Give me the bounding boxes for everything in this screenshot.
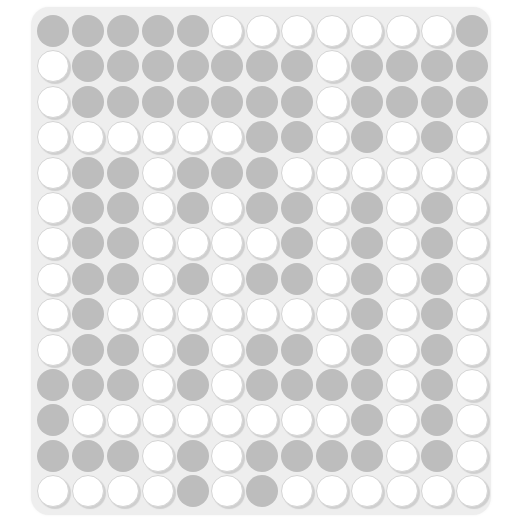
circle-cell-r2-c3[interactable] (107, 50, 139, 82)
circle-cell-r5-c12[interactable] (421, 157, 453, 189)
circle-cell-r1-c6[interactable] (211, 15, 243, 47)
circle-cell-r12-c7[interactable] (246, 404, 278, 436)
circle-cell-r11-c5[interactable] (177, 369, 209, 401)
circle-cell-r6-c1[interactable] (37, 192, 69, 224)
circle-cell-r14-c2[interactable] (72, 475, 104, 507)
circle-cell-r3-c13[interactable] (456, 86, 488, 118)
circle-cell-r6-c12[interactable] (421, 192, 453, 224)
circle-cell-r1-c2[interactable] (72, 15, 104, 47)
circle-cell-r12-c6[interactable] (211, 404, 243, 436)
circle-cell-r14-c4[interactable] (142, 475, 174, 507)
circle-cell-r4-c1[interactable] (37, 121, 69, 153)
circle-cell-r3-c7[interactable] (246, 86, 278, 118)
circle-cell-r11-c10[interactable] (351, 369, 383, 401)
circle-cell-r1-c10[interactable] (351, 15, 383, 47)
circle-cell-r4-c9[interactable] (316, 121, 348, 153)
circle-cell-r8-c1[interactable] (37, 263, 69, 295)
circle-cell-r3-c1[interactable] (37, 86, 69, 118)
circle-cell-r12-c4[interactable] (142, 404, 174, 436)
circle-cell-r7-c10[interactable] (351, 227, 383, 259)
circle-cell-r4-c8[interactable] (281, 121, 313, 153)
circle-cell-r10-c6[interactable] (211, 334, 243, 366)
circle-cell-r3-c9[interactable] (316, 86, 348, 118)
circle-cell-r13-c6[interactable] (211, 440, 243, 472)
circle-cell-r7-c3[interactable] (107, 227, 139, 259)
circle-cell-r6-c7[interactable] (246, 192, 278, 224)
circle-cell-r14-c12[interactable] (421, 475, 453, 507)
circle-cell-r3-c12[interactable] (421, 86, 453, 118)
circle-cell-r7-c7[interactable] (246, 227, 278, 259)
circle-cell-r5-c3[interactable] (107, 157, 139, 189)
circle-cell-r14-c1[interactable] (37, 475, 69, 507)
circle-cell-r11-c3[interactable] (107, 369, 139, 401)
circle-cell-r14-c5[interactable] (177, 475, 209, 507)
circle-cell-r7-c4[interactable] (142, 227, 174, 259)
circle-cell-r10-c1[interactable] (37, 334, 69, 366)
circle-cell-r4-c13[interactable] (456, 121, 488, 153)
circle-cell-r6-c8[interactable] (281, 192, 313, 224)
circle-cell-r6-c6[interactable] (211, 192, 243, 224)
circle-cell-r2-c9[interactable] (316, 50, 348, 82)
circle-cell-r12-c3[interactable] (107, 404, 139, 436)
circle-cell-r10-c5[interactable] (177, 334, 209, 366)
circle-cell-r9-c5[interactable] (177, 298, 209, 330)
circle-cell-r4-c6[interactable] (211, 121, 243, 153)
circle-cell-r13-c2[interactable] (72, 440, 104, 472)
circle-cell-r9-c13[interactable] (456, 298, 488, 330)
circle-cell-r12-c11[interactable] (386, 404, 418, 436)
circle-cell-r9-c7[interactable] (246, 298, 278, 330)
circle-cell-r7-c2[interactable] (72, 227, 104, 259)
circle-cell-r10-c13[interactable] (456, 334, 488, 366)
circle-cell-r3-c11[interactable] (386, 86, 418, 118)
circle-cell-r9-c6[interactable] (211, 298, 243, 330)
circle-cell-r6-c13[interactable] (456, 192, 488, 224)
circle-cell-r2-c5[interactable] (177, 50, 209, 82)
circle-cell-r8-c8[interactable] (281, 263, 313, 295)
circle-cell-r6-c5[interactable] (177, 192, 209, 224)
circle-cell-r13-c1[interactable] (37, 440, 69, 472)
circle-cell-r11-c2[interactable] (72, 369, 104, 401)
circle-cell-r12-c1[interactable] (37, 404, 69, 436)
circle-cell-r8-c11[interactable] (386, 263, 418, 295)
circle-cell-r14-c13[interactable] (456, 475, 488, 507)
circle-cell-r14-c10[interactable] (351, 475, 383, 507)
circle-cell-r14-c9[interactable] (316, 475, 348, 507)
circle-cell-r4-c12[interactable] (421, 121, 453, 153)
circle-cell-r4-c5[interactable] (177, 121, 209, 153)
circle-cell-r11-c12[interactable] (421, 369, 453, 401)
circle-cell-r10-c11[interactable] (386, 334, 418, 366)
circle-cell-r14-c11[interactable] (386, 475, 418, 507)
circle-cell-r10-c9[interactable] (316, 334, 348, 366)
circle-cell-r7-c8[interactable] (281, 227, 313, 259)
circle-cell-r14-c7[interactable] (246, 475, 278, 507)
circle-cell-r6-c2[interactable] (72, 192, 104, 224)
circle-cell-r7-c9[interactable] (316, 227, 348, 259)
circle-cell-r3-c2[interactable] (72, 86, 104, 118)
circle-cell-r8-c7[interactable] (246, 263, 278, 295)
circle-cell-r5-c13[interactable] (456, 157, 488, 189)
circle-cell-r5-c6[interactable] (211, 157, 243, 189)
circle-cell-r9-c8[interactable] (281, 298, 313, 330)
circle-cell-r10-c12[interactable] (421, 334, 453, 366)
circle-cell-r1-c12[interactable] (421, 15, 453, 47)
circle-cell-r11-c8[interactable] (281, 369, 313, 401)
circle-cell-r6-c11[interactable] (386, 192, 418, 224)
circle-cell-r11-c9[interactable] (316, 369, 348, 401)
circle-cell-r12-c10[interactable] (351, 404, 383, 436)
circle-cell-r3-c5[interactable] (177, 86, 209, 118)
circle-cell-r5-c7[interactable] (246, 157, 278, 189)
circle-cell-r2-c12[interactable] (421, 50, 453, 82)
circle-cell-r6-c10[interactable] (351, 192, 383, 224)
circle-cell-r8-c9[interactable] (316, 263, 348, 295)
circle-cell-r8-c12[interactable] (421, 263, 453, 295)
circle-cell-r7-c13[interactable] (456, 227, 488, 259)
circle-cell-r13-c7[interactable] (246, 440, 278, 472)
circle-cell-r6-c9[interactable] (316, 192, 348, 224)
circle-cell-r1-c8[interactable] (281, 15, 313, 47)
circle-cell-r1-c13[interactable] (456, 15, 488, 47)
circle-cell-r4-c10[interactable] (351, 121, 383, 153)
circle-cell-r11-c1[interactable] (37, 369, 69, 401)
circle-cell-r11-c11[interactable] (386, 369, 418, 401)
circle-cell-r9-c2[interactable] (72, 298, 104, 330)
circle-cell-r5-c5[interactable] (177, 157, 209, 189)
